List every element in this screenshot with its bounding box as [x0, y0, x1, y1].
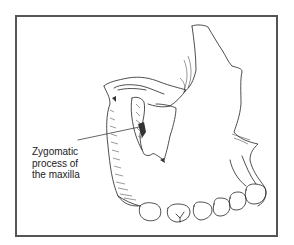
zygomatic-process-label: Zygomatic process of the maxilla: [32, 146, 80, 181]
label-line-2: process of: [32, 158, 80, 170]
maxilla-illustration: [0, 0, 294, 245]
label-line-3: the maxilla: [32, 169, 80, 181]
tooth: [139, 203, 161, 221]
tooth: [193, 202, 212, 220]
tooth: [213, 198, 230, 216]
tooth: [245, 184, 266, 204]
leader-line: [78, 126, 144, 140]
zygomatic-body: [104, 86, 138, 206]
orbital-rim: [104, 77, 186, 107]
frontal-process-outline: [192, 25, 266, 206]
tooth: [167, 204, 190, 222]
tooth: [229, 192, 246, 210]
label-line-1: Zygomatic: [32, 146, 80, 158]
